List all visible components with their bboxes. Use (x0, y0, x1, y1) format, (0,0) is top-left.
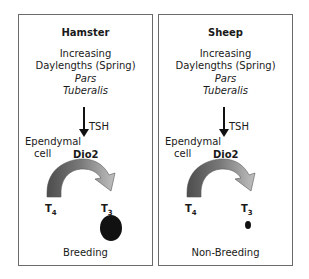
sheep-panel: Sheep Increasing Daylengths (Spring) Par… (158, 14, 293, 266)
hamster-panel: Hamster Increasing Daylengths (Spring) P… (18, 14, 153, 266)
breeding-state-label: Breeding (19, 247, 152, 259)
tuberalis-label: Tuberalis (159, 85, 292, 97)
small-gonad-marker (245, 221, 251, 229)
panel-title: Hamster (19, 27, 152, 39)
increasing-label: Increasing (19, 48, 152, 60)
tuberalis-label: Tuberalis (19, 85, 152, 97)
non-breeding-state-label: Non-Breeding (159, 247, 292, 259)
ependymal-label: Ependymal (165, 136, 221, 148)
panel-title: Sheep (159, 27, 292, 39)
large-gonad-marker (100, 215, 122, 241)
tsh-arrow-shaft (223, 107, 225, 131)
t4-label: T4 (45, 203, 57, 219)
conversion-arrow-icon (179, 157, 269, 201)
t3-label: T3 (241, 203, 253, 219)
ependymal-label: Ependymal (25, 136, 81, 148)
tsh-label: TSH (229, 121, 249, 133)
daylengths-label: Daylengths (Spring) (19, 60, 152, 72)
increasing-label: Increasing (159, 48, 292, 60)
daylengths-label: Daylengths (Spring) (159, 60, 292, 72)
conversion-arrow-icon (39, 157, 129, 201)
pars-label: Pars (19, 73, 152, 85)
pars-label: Pars (159, 73, 292, 85)
t4-label: T4 (185, 203, 197, 219)
tsh-arrow-shaft (83, 107, 85, 131)
tsh-label: TSH (89, 121, 109, 133)
